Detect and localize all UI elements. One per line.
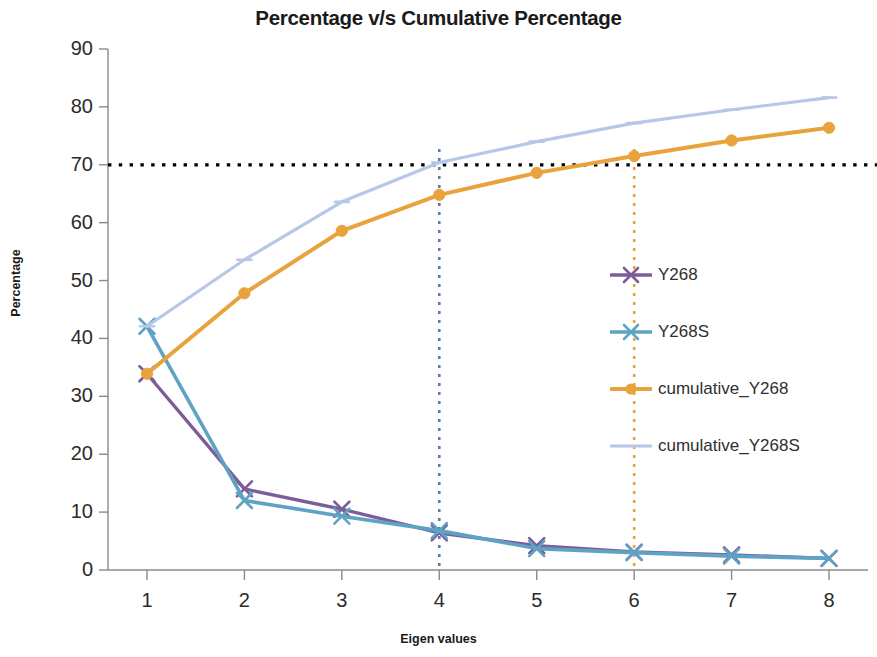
- data-point-marker: [239, 288, 250, 299]
- legend-swatch-circle-icon: [610, 378, 652, 400]
- data-point-marker: [141, 368, 152, 379]
- legend-item-cumulative_y268[interactable]: cumulative_Y268: [610, 376, 788, 402]
- legend-item-y268s[interactable]: Y268S: [610, 319, 709, 345]
- legend-item-y268[interactable]: Y268: [610, 262, 698, 288]
- data-point-marker: [434, 189, 445, 200]
- legend-label: Y268S: [658, 322, 709, 342]
- data-point-marker: [336, 225, 347, 236]
- legend-label: cumulative_Y268: [658, 379, 788, 399]
- chart-container: Percentage v/s Cumulative Percentage Per…: [0, 0, 877, 657]
- data-point-marker: [531, 167, 542, 178]
- data-point-marker: [726, 135, 737, 146]
- legend-item-cumulative_y268s[interactable]: cumulative_Y268S: [610, 433, 800, 459]
- legend-swatch-dash-icon: [610, 435, 652, 457]
- data-point-marker: [629, 150, 640, 161]
- legend-swatch-x-icon: [610, 321, 652, 343]
- data-point-marker: [823, 122, 834, 133]
- legend-label: Y268: [658, 265, 698, 285]
- legend-swatch-x-icon: [610, 264, 652, 286]
- legend-label: cumulative_Y268S: [658, 436, 800, 456]
- plot-area: [0, 0, 877, 657]
